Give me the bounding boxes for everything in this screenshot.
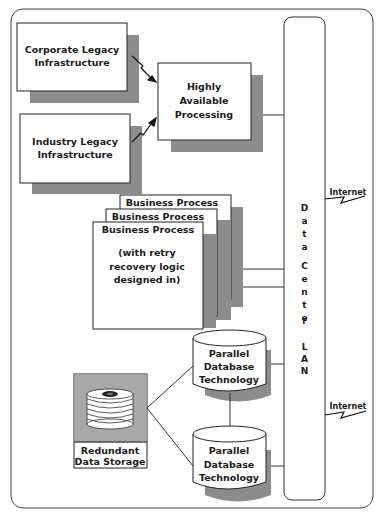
svg-text:Parallel: Parallel	[209, 348, 249, 359]
svg-text:Corporate Legacy: Corporate Legacy	[25, 44, 120, 55]
database-cylinder-2: Parallel Database Technology	[193, 426, 271, 502]
storage-db1-link	[147, 366, 193, 408]
svg-text:Internet: Internet	[330, 402, 367, 411]
disk-stack-icon	[87, 389, 133, 429]
industry-legacy-node: Industry Legacy Infrastructure	[20, 114, 142, 194]
svg-text:designed in): designed in)	[114, 274, 181, 285]
svg-text:Processing: Processing	[175, 109, 233, 120]
high-availability-node: Highly Available Processing	[158, 63, 263, 152]
storage-db2-link	[147, 408, 193, 466]
svg-text:N: N	[301, 366, 309, 376]
storage-node: Redundant Data Storage	[74, 374, 147, 468]
svg-text:Data Storage: Data Storage	[75, 456, 146, 467]
internet-link-2: Internet	[325, 402, 367, 418]
svg-text:Infrastructure: Infrastructure	[37, 149, 112, 160]
svg-text:Technology: Technology	[199, 374, 260, 385]
svg-text:Industry Legacy: Industry Legacy	[32, 136, 119, 147]
svg-text:a: a	[301, 242, 307, 252]
svg-text:Infrastructure: Infrastructure	[34, 57, 109, 68]
svg-text:Available: Available	[179, 95, 228, 106]
svg-text:Database: Database	[204, 459, 255, 470]
svg-text:Internet: Internet	[330, 188, 367, 197]
svg-text:t: t	[302, 229, 307, 239]
svg-text:Business Process: Business Process	[102, 224, 195, 235]
svg-text:A: A	[301, 354, 308, 364]
lightning-link-icon	[325, 196, 365, 203]
svg-text:Business Process: Business Process	[126, 197, 219, 208]
svg-text:Technology: Technology	[199, 472, 260, 483]
svg-text:(with retry: (with retry	[118, 247, 176, 258]
svg-text:L: L	[302, 342, 308, 352]
svg-text:Redundant: Redundant	[81, 445, 140, 456]
svg-text:Highly: Highly	[187, 81, 222, 92]
svg-text:e: e	[301, 274, 307, 284]
corporate-legacy-node: Corporate Legacy Infrastructure	[17, 23, 139, 103]
svg-text:a: a	[301, 216, 307, 226]
lightning-link-icon	[325, 411, 366, 418]
svg-text:Business Process: Business Process	[112, 211, 205, 222]
svg-text:Database: Database	[204, 361, 255, 372]
lan-bus	[284, 17, 325, 500]
svg-text:Parallel: Parallel	[209, 445, 249, 456]
database-cylinder-1: Parallel Database Technology	[193, 330, 271, 402]
svg-text:t: t	[302, 300, 307, 310]
svg-text:r: r	[302, 316, 307, 326]
business-process-stack: Business Process Business Process Busine…	[93, 195, 243, 329]
svg-text:D: D	[301, 203, 308, 213]
svg-text:recovery logic: recovery logic	[109, 261, 185, 272]
internet-link-1: Internet	[325, 188, 367, 203]
architecture-diagram: Corporate Legacy Infrastructure Industry…	[0, 0, 385, 516]
svg-text:C: C	[301, 261, 308, 271]
svg-text:n: n	[301, 287, 307, 297]
